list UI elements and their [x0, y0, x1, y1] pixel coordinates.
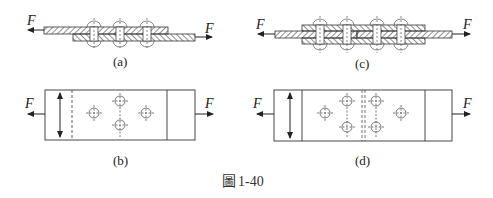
rivet-hole [138, 105, 154, 121]
rivet-hole [317, 105, 333, 121]
force-label-right: F [462, 96, 472, 111]
rivet-hole [393, 105, 409, 121]
rivet-hole [339, 93, 355, 137]
panel-c: F F (c) [255, 16, 472, 71]
rivet-hole [86, 105, 102, 121]
force-label-right: F [204, 96, 214, 111]
force-label-left: F [252, 96, 262, 111]
force-label-left: F [26, 13, 36, 28]
rivet-hole [368, 122, 384, 132]
force-label-left: F [255, 17, 265, 32]
rivet-hole [368, 93, 384, 137]
panel-d: F F (d) [252, 90, 472, 168]
rivet-hole [112, 93, 128, 137]
force-label-left: F [24, 96, 34, 111]
panel-a: F F (a) [26, 13, 214, 69]
rivet-holes [317, 93, 409, 137]
force-label-right: F [204, 21, 214, 36]
panel-label-d: (d) [355, 153, 370, 168]
rivet-group [87, 18, 154, 50]
caption-number: 1-40 [238, 174, 264, 189]
figure-canvas: F F (a) [0, 0, 493, 198]
rivet-holes [86, 93, 154, 137]
panel-label-b: (b) [113, 153, 128, 168]
panel-b: F F (b) [24, 90, 214, 168]
figure-caption: 圖 1-40 [222, 174, 264, 189]
rivet-hole [339, 122, 355, 132]
force-label-right: F [462, 17, 472, 32]
caption-prefix: 圖 [222, 174, 236, 189]
panel-label-c: (c) [355, 56, 369, 71]
panel-label-a: (a) [113, 54, 127, 69]
